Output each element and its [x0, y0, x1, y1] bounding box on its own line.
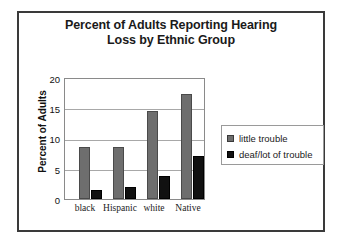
chart-title-line-1: Percent of Adults Reporting Hearing: [24, 18, 318, 33]
bar-white-little-trouble: [147, 111, 158, 199]
x-tick-label-native: Native: [164, 203, 212, 213]
y-tick-label-0: 0: [36, 195, 60, 206]
bar-native-little-trouble: [181, 94, 192, 199]
legend-label-little-trouble: little trouble: [239, 133, 288, 144]
y-tick-label-5: 5: [36, 165, 60, 176]
bar-native-deaf-lot-of-trouble: [193, 156, 204, 199]
plot-area: [64, 78, 205, 200]
legend-item-deaf-lot-of-trouble[interactable]: deaf/lot of trouble: [227, 147, 323, 162]
chart-title-line-2: Loss by Ethnic Group: [24, 33, 318, 48]
y-tick-label-10: 10: [36, 134, 60, 145]
legend-swatch-icon-deaf-lot-of-trouble: [227, 151, 234, 158]
chart-legend: little trouble deaf/lot of trouble: [221, 125, 324, 165]
legend-item-little-trouble[interactable]: little trouble: [227, 131, 323, 146]
chart-title: Percent of Adults Reporting Hearing Loss…: [24, 18, 318, 48]
y-tick-label-15: 15: [36, 104, 60, 115]
chart-figure: Percent of Adults Reporting Hearing Loss…: [0, 0, 344, 251]
bar-black-little-trouble: [79, 147, 90, 199]
bar-black-deaf-lot-of-trouble: [91, 190, 102, 199]
legend-label-deaf-lot-of-trouble: deaf/lot of trouble: [239, 149, 312, 160]
bar-white-deaf-lot-of-trouble: [159, 176, 170, 199]
legend-swatch-icon-little-trouble: [227, 135, 234, 142]
y-tick-label-20: 20: [36, 74, 60, 85]
bar-hispanic-little-trouble: [113, 147, 124, 199]
bar-hispanic-deaf-lot-of-trouble: [125, 187, 136, 199]
